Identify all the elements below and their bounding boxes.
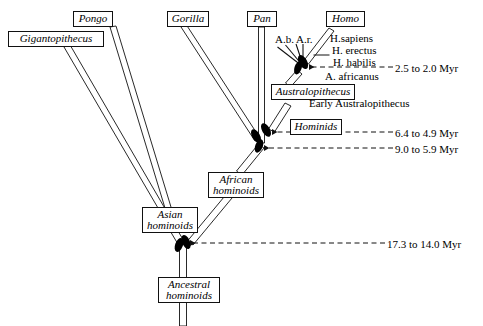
- clade-label-ancestral-hominoids-line2: hominoids: [162, 290, 216, 301]
- clade-label-asian-hominoids-line2: hominoids: [146, 220, 194, 231]
- taxon-box-gigantopithecus[interactable]: Gigantopithecus: [8, 31, 104, 47]
- taxon-box-gorilla[interactable]: Gorilla: [167, 11, 209, 27]
- taxon-label-homo: Homo: [332, 12, 359, 24]
- taxon-box-pongo[interactable]: Pongo: [73, 11, 113, 27]
- clade-box-hominids[interactable]: Hominids: [290, 119, 342, 135]
- phylogeny-tree-graphic: [0, 0, 483, 326]
- taxon-label-pan: Pan: [253, 12, 271, 24]
- taxon-box-pan[interactable]: Pan: [247, 11, 277, 27]
- label-h-erectus: H. erectus: [332, 44, 377, 56]
- date-label-african: 9.0 to 5.9 Myr: [395, 143, 458, 155]
- clade-label-african-hominoids-line2: hominoids: [212, 185, 260, 196]
- label-early-australopithecus: Early Australopithecus: [309, 97, 410, 109]
- branch-gorilla: [181, 25, 261, 141]
- clade-box-asian-hominoids[interactable]: Asian hominoids: [142, 207, 198, 233]
- date-label-homo: 2.5 to 2.0 Myr: [395, 62, 458, 74]
- clade-box-african-hominoids[interactable]: African hominoids: [208, 172, 264, 198]
- figure-canvas: Gigantopithecus Pongo Gorilla Pan Homo A…: [0, 0, 483, 326]
- taxon-label-pongo: Pongo: [79, 12, 108, 24]
- clade-label-australopithecus: Australopithecus: [276, 85, 351, 97]
- branch-gigantopithecus: [64, 44, 167, 214]
- date-label-hominids: 6.4 to 4.9 Myr: [395, 127, 458, 139]
- taxon-label-gorilla: Gorilla: [172, 12, 204, 24]
- label-ab-ar: A.b. A.r.: [275, 33, 313, 45]
- taxon-box-homo[interactable]: Homo: [326, 11, 365, 27]
- branch-pongo: [110, 26, 173, 213]
- branch-early-australopithecus: [269, 103, 292, 132]
- taxon-label-gigantopithecus: Gigantopithecus: [20, 32, 93, 44]
- date-label-asian: 17.3 to 14.0 Myr: [387, 238, 461, 250]
- branch-a-boisei: [278, 47, 300, 64]
- clade-box-ancestral-hominoids[interactable]: Ancestral hominoids: [158, 277, 220, 303]
- label-h-sapiens: H.sapiens: [330, 32, 373, 44]
- label-a-africanus: A. africanus: [325, 70, 379, 82]
- clade-label-hominids: Hominids: [295, 120, 338, 132]
- label-h-habilis: H. habilis: [333, 56, 376, 68]
